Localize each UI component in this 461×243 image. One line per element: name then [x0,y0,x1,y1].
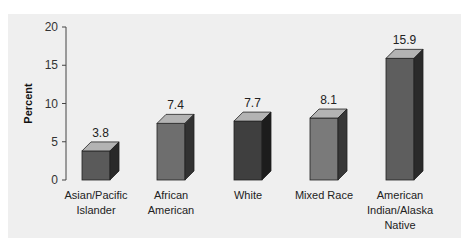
y-tick-label: 0 [51,173,58,187]
bar-value-label: 8.1 [320,93,337,107]
bar-3 [310,109,347,180]
bar-value-label: 7.7 [244,96,261,110]
x-category-label-line: Native [355,218,445,233]
y-tick-label: 20 [45,20,59,34]
bar-2 [234,112,271,180]
x-category-label: AmericanIndian/AlaskaNative [355,188,445,233]
x-category-label-line: Indian/Alaska [355,203,445,218]
x-category-label-line: American [126,203,216,218]
y-tick-label: 15 [45,58,59,72]
y-axis-label: Percent [22,83,34,124]
bar-value-label: 15.9 [393,33,417,47]
bar-1 [157,114,194,180]
y-tick-label: 10 [45,97,59,111]
y-tick-label: 5 [51,135,58,149]
bar-value-label: 3.8 [92,126,109,140]
x-category-label-line: American [355,188,445,203]
bar-0 [82,142,119,180]
bar-value-label: 7.4 [167,98,184,112]
bar-4 [386,49,423,180]
